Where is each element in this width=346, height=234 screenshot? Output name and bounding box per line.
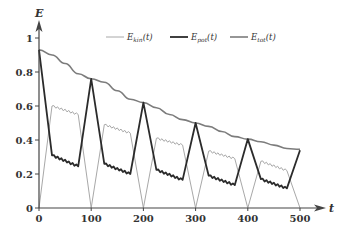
y-tick-label: 0.8 (16, 67, 33, 78)
series-line-tot (39, 50, 300, 149)
x-axis-title: t (329, 202, 334, 215)
x-tick-label: 100 (81, 213, 102, 224)
x-tick-label: 200 (133, 213, 154, 224)
series-line-kin (39, 106, 300, 208)
y-tick-label: 0.4 (16, 135, 33, 146)
y-tick-label: 0 (26, 203, 33, 214)
energy-chart: 00.20.40.60.81 0100200300400500 E t Ekin… (0, 0, 346, 234)
x-ticks: 0100200300400500 (36, 208, 311, 224)
axes (36, 20, 327, 212)
legend-item-kin: Ekin(t) (106, 32, 153, 43)
x-tick-label: 500 (290, 213, 311, 224)
x-tick-label: 300 (185, 213, 206, 224)
y-tick-label: 0.2 (16, 169, 33, 180)
x-tick-label: 0 (36, 213, 43, 224)
y-tick-label: 0.6 (16, 101, 33, 112)
legend-label: Etot(t) (250, 32, 276, 43)
legend-label: Ekin(t) (126, 32, 153, 43)
series-layer (39, 50, 300, 208)
legend-label: Epot(t) (190, 32, 217, 44)
series-line-pot (39, 50, 300, 189)
y-ticks: 00.20.40.60.81 (16, 33, 39, 214)
y-tick-label: 1 (26, 33, 33, 44)
legend-item-pot: Epot(t) (170, 32, 217, 44)
legend-item-tot: Etot(t) (230, 32, 276, 43)
legend: Ekin(t)Epot(t)Etot(t) (106, 32, 276, 44)
x-tick-label: 400 (237, 213, 258, 224)
y-axis-title: E (34, 7, 44, 20)
